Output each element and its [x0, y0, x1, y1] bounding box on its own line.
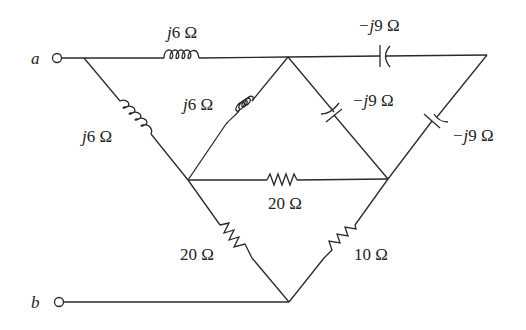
resistor-right-label: 10 Ω — [354, 245, 388, 264]
middle-inductor-branch: j6 Ω — [181, 57, 288, 180]
inductor-middle-label: j6 Ω — [181, 95, 213, 114]
inductor-top-icon — [164, 50, 199, 59]
resistor-left-label: 20 Ω — [180, 245, 214, 264]
resistor-middle-label: 20 Ω — [268, 194, 302, 213]
wire-D-to-rright — [355, 179, 388, 225]
wire-rmid-to-D — [297, 179, 388, 180]
wire-rright-to-E — [289, 258, 324, 302]
left-branch: j6 Ω — [80, 58, 188, 180]
inductor-top-label: j6 Ω — [165, 23, 197, 42]
wire-nodeB-to-ctop — [288, 56, 380, 57]
wire-ctop-to-R — [385, 55, 487, 56]
wire-lmid-to-C — [188, 124, 226, 180]
wire-rleft-to-E — [252, 258, 289, 302]
wire-ltop-to-nodeB — [199, 57, 288, 58]
terminal-b: b — [31, 293, 64, 312]
capacitor-top-label: −j9 Ω — [358, 16, 400, 35]
middle-capacitor-branch: −j9 Ω — [288, 57, 394, 179]
terminal-a-circle — [53, 54, 62, 63]
wire-cmid-to-D — [334, 115, 388, 179]
capacitor-middle-label: −j9 Ω — [352, 91, 394, 110]
wire-B-to-lmid — [252, 57, 288, 101]
terminal-b-circle — [55, 298, 64, 307]
top-branch: j6 Ω −j9 Ω — [62, 16, 488, 67]
wire-C-to-rleft — [188, 180, 220, 225]
inductor-middle-icon — [226, 96, 253, 124]
terminal-a: a — [31, 49, 62, 68]
circuit-diagram: a b j6 Ω −j9 Ω j6 Ω — [0, 0, 526, 330]
terminal-b-label: b — [31, 293, 40, 312]
inductor-left-label: j6 Ω — [80, 127, 112, 146]
middle-resistor-branch: 20 Ω — [188, 174, 388, 213]
capacitor-right-curve — [434, 114, 448, 122]
wire-R-to-cright — [437, 55, 487, 117]
wire-B-to-cmid — [288, 57, 334, 112]
right-resistor-branch: 10 Ω — [289, 179, 388, 302]
wire-cright-to-D — [388, 121, 432, 179]
inductor-left-icon — [120, 100, 152, 134]
resistor-left-icon — [220, 223, 252, 258]
right-capacitor-branch: −j9 Ω — [388, 55, 494, 179]
capacitor-middle-curve — [321, 103, 339, 114]
wire-lleft-to-C — [151, 134, 188, 180]
capacitor-right-label: −j9 Ω — [452, 126, 494, 145]
resistor-right-icon — [324, 225, 356, 258]
terminal-a-label: a — [31, 49, 40, 68]
wire-A-to-lleft — [84, 58, 120, 101]
resistor-middle-icon — [267, 174, 297, 185]
